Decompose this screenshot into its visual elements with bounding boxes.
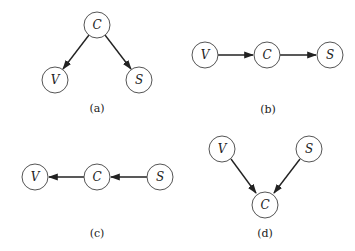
node-s: S bbox=[317, 42, 343, 68]
node-c: C bbox=[252, 192, 278, 218]
caption-c: (c) bbox=[90, 227, 105, 240]
node-s: S bbox=[126, 67, 152, 93]
svg-text:V: V bbox=[201, 48, 211, 62]
node-s: S bbox=[296, 136, 322, 162]
edge-s-to-c bbox=[274, 159, 300, 193]
node-v: V bbox=[22, 164, 48, 190]
node-v: V bbox=[192, 42, 218, 68]
node-s: S bbox=[147, 164, 173, 190]
node-v: V bbox=[42, 67, 68, 93]
caption-d: (d) bbox=[257, 227, 273, 240]
svg-text:C: C bbox=[92, 18, 101, 32]
diagram-d: V S C (d) bbox=[209, 136, 322, 240]
edge-c-to-s bbox=[105, 35, 131, 69]
svg-text:S: S bbox=[326, 48, 334, 62]
edge-v-to-c bbox=[231, 159, 256, 193]
caption-b: (b) bbox=[260, 103, 276, 116]
svg-text:C: C bbox=[260, 198, 269, 212]
diagram-canvas: C V S (a) V C S (b) V C S (c) V S C (d) bbox=[0, 0, 355, 251]
svg-text:C: C bbox=[262, 48, 271, 62]
svg-text:S: S bbox=[305, 142, 313, 156]
edge-c-to-v bbox=[63, 35, 89, 69]
caption-a: (a) bbox=[89, 102, 104, 115]
diagram-b: V C S (b) bbox=[192, 42, 343, 116]
svg-text:V: V bbox=[51, 73, 61, 87]
diagram-c: V C S (c) bbox=[22, 164, 173, 240]
svg-text:S: S bbox=[135, 73, 143, 87]
svg-text:S: S bbox=[156, 170, 164, 184]
node-c: C bbox=[84, 164, 110, 190]
node-c: C bbox=[254, 42, 280, 68]
svg-text:C: C bbox=[92, 170, 101, 184]
diagram-a: C V S (a) bbox=[42, 12, 152, 115]
svg-text:V: V bbox=[31, 170, 41, 184]
diagram-svg: C V S (a) V C S (b) V C S (c) V S C (d) bbox=[0, 0, 355, 251]
svg-text:V: V bbox=[218, 142, 228, 156]
node-c: C bbox=[84, 12, 110, 38]
node-v: V bbox=[209, 136, 235, 162]
